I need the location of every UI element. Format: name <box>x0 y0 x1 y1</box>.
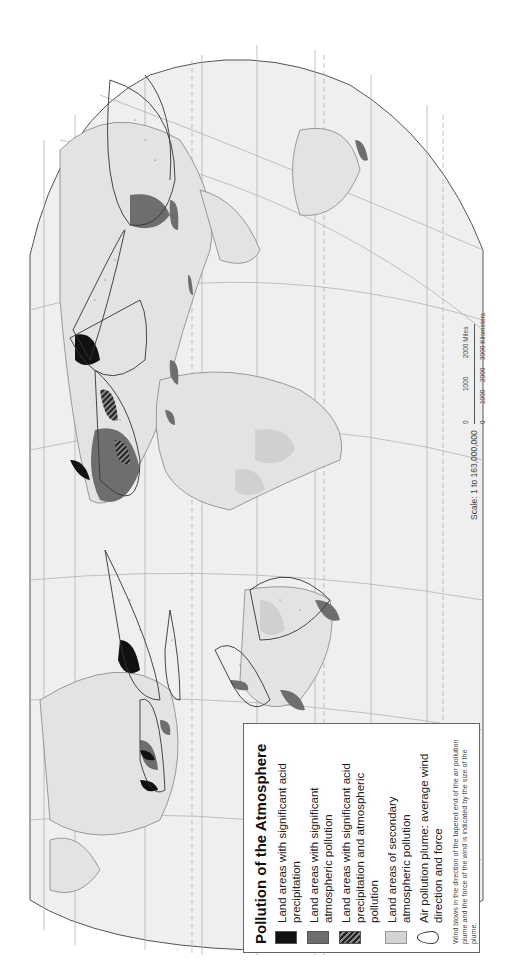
scale-miles-2000: 2000 Miles <box>462 327 469 358</box>
hatched-swatch-icon <box>339 931 361 944</box>
map-legend: Pollution of the Atmosphere Land areas w… <box>243 723 480 953</box>
legend-title: Pollution of the Atmosphere <box>252 732 269 944</box>
black-swatch-icon <box>275 931 297 944</box>
legend-item-acid-precipitation: Land areas with significant acid precipi… <box>275 732 303 944</box>
scale-bar: 0 1000 2000 Miles 0 1000 2000 3000 Kilom… <box>462 294 488 424</box>
legend-item-plume: Air pollution plume: average wind direct… <box>417 732 445 944</box>
scale-km-1000: 1000 <box>479 390 486 404</box>
scale-km-0: 0 <box>479 420 486 424</box>
scale-miles-1000: 1000 <box>462 377 469 391</box>
scale-miles-0: 0 <box>462 420 469 424</box>
scale-km-2000: 2000 <box>479 368 486 382</box>
legend-item-acid-and-atmospheric: Land areas with significant acid precipi… <box>339 732 381 944</box>
scale-ratio: Scale: 1 to 163,000,000 <box>469 430 479 520</box>
light-gray-swatch-icon <box>385 931 407 944</box>
dark-gray-swatch-icon <box>307 931 329 944</box>
map-scale: Scale: 1 to 163,000,000 0 1000 2000 Mile… <box>462 290 488 520</box>
scale-km-3000: 3000 Kilometers <box>479 313 486 360</box>
legend-item-secondary-pollution: Land areas of secondary atmospheric poll… <box>385 732 413 944</box>
legend-note: Wind blows in the direction of the taper… <box>451 732 478 944</box>
scale-line <box>474 324 475 424</box>
plume-outline-icon <box>417 931 439 944</box>
legend-item-atmospheric-pollution: Land areas with significant atmospheric … <box>307 732 335 944</box>
